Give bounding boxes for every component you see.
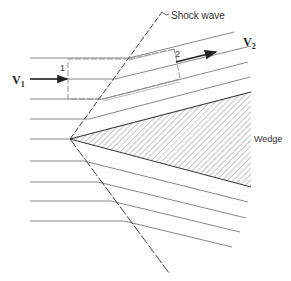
v2-label: V2 — [243, 35, 256, 51]
v1-label: V1 — [12, 73, 25, 89]
control-volume — [68, 49, 180, 99]
wedge — [70, 92, 251, 187]
shock-wave-label: Shock wave — [171, 10, 225, 21]
wedge-label: Wedge — [254, 134, 282, 144]
station-1-label: 1 — [60, 63, 65, 73]
oblique-shock-diagram: Shock wave V1 V2 1 2 Wedge — [0, 0, 291, 281]
station-2-label: 2 — [175, 49, 180, 59]
streamlines-box — [103, 49, 179, 101]
v2-arrow — [176, 52, 216, 62]
